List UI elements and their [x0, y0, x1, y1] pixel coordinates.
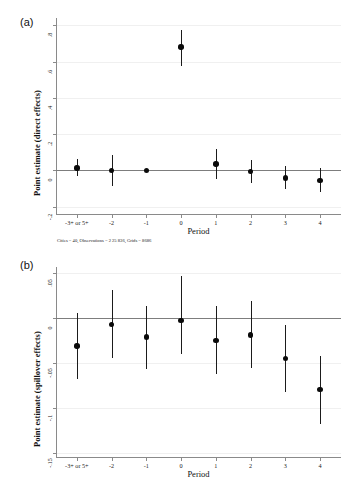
x-axis-line: [56, 457, 341, 458]
zero-reference-line: [56, 318, 341, 319]
gridline: [56, 408, 341, 409]
data-point-marker: [144, 168, 149, 173]
zero-reference-line: [56, 170, 341, 171]
data-point-marker: [74, 165, 79, 170]
panel-b-label: (b): [20, 259, 33, 271]
x-tick-mark: [251, 458, 252, 461]
y-tick-label: 0: [47, 318, 53, 338]
data-point-marker: [213, 338, 218, 343]
x-tick-mark: [251, 215, 252, 218]
gridline: [56, 453, 341, 454]
y-tick-label: .4: [47, 98, 53, 118]
panel-a-label: (a): [20, 16, 33, 28]
data-point-marker: [178, 44, 183, 49]
data-point-marker: [283, 356, 288, 361]
data-point-marker: [74, 343, 79, 348]
data-point-marker: [213, 161, 218, 166]
data-point-marker: [317, 178, 322, 183]
y-axis-line: [56, 267, 57, 457]
y-tick-label: 0: [47, 170, 53, 190]
y-tick-label: -.05: [47, 363, 53, 383]
panel-a-x-axis-title: Period: [56, 226, 341, 236]
x-tick-mark: [181, 215, 182, 218]
data-point-marker: [178, 318, 183, 323]
gridline: [56, 98, 341, 99]
data-point-marker: [109, 168, 114, 173]
x-tick-label: 4: [292, 462, 348, 469]
x-tick-mark: [146, 215, 147, 218]
x-tick-mark: [181, 458, 182, 461]
y-tick-mark: [53, 408, 56, 409]
error-bar: [181, 276, 182, 354]
x-tick-mark: [320, 215, 321, 218]
chart-panel-a: (a) Point estimate (direct effects) .8.6…: [0, 0, 356, 251]
x-tick-mark: [77, 458, 78, 461]
panel-a-footnote: Cities = 40, Observations = 2 25 836, Gr…: [57, 238, 151, 243]
gridline: [56, 62, 341, 63]
gridline: [56, 134, 341, 135]
gridline: [56, 363, 341, 364]
x-tick-mark: [112, 215, 113, 218]
chart-panel-b: (b) Point estimate (spillover effects) .…: [0, 251, 356, 502]
panel-a-y-axis-title: Point estimate (direct effects): [32, 90, 42, 196]
panel-a-plot-area: .8.6.4.20-.2-3+ or 5+-2-101234: [56, 18, 341, 214]
x-tick-mark: [320, 458, 321, 461]
x-tick-mark: [146, 458, 147, 461]
x-tick-mark: [77, 215, 78, 218]
panel-b-plot-area: .050-.05-.1-.15-3+ or 5+-2-101234: [56, 267, 341, 457]
y-tick-mark: [53, 453, 56, 454]
y-tick-mark: [53, 25, 56, 26]
data-point-marker: [109, 322, 114, 327]
x-axis-line: [56, 214, 341, 215]
y-tick-mark: [53, 207, 56, 208]
figure-container: (a) Point estimate (direct effects) .8.6…: [0, 0, 356, 502]
panel-b-x-axis-title: Period: [56, 469, 341, 479]
y-tick-mark: [53, 363, 56, 364]
gridline: [56, 273, 341, 274]
y-tick-mark: [53, 62, 56, 63]
x-tick-mark: [285, 215, 286, 218]
y-tick-label: .05: [47, 273, 53, 293]
y-axis-line: [56, 18, 57, 214]
y-tick-mark: [53, 134, 56, 135]
x-tick-label: 4: [292, 219, 348, 226]
gridline: [56, 25, 341, 26]
data-point-marker: [248, 169, 253, 174]
data-point-marker: [317, 387, 322, 392]
y-tick-mark: [53, 98, 56, 99]
data-point-marker: [248, 332, 253, 337]
x-tick-mark: [216, 215, 217, 218]
gridline: [56, 207, 341, 208]
y-tick-mark: [53, 273, 56, 274]
data-point-marker: [283, 175, 288, 180]
y-tick-label: .6: [47, 62, 53, 82]
x-tick-mark: [216, 458, 217, 461]
x-tick-mark: [285, 458, 286, 461]
x-tick-mark: [112, 458, 113, 461]
y-tick-label: .8: [47, 25, 53, 45]
panel-b-y-axis-title: Point estimate (spillover effects): [32, 331, 42, 447]
y-tick-label: .2: [47, 134, 53, 154]
y-tick-label: -.1: [47, 408, 53, 428]
data-point-marker: [144, 334, 149, 339]
